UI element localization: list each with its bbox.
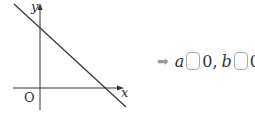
origin-label: O: [24, 90, 35, 105]
coordinate-graph: [0, 0, 135, 114]
blank-box-a[interactable]: [186, 52, 200, 70]
y-axis-label: y: [31, 0, 38, 14]
x-axis-label: x: [121, 85, 128, 100]
zero-a: 0,: [202, 52, 217, 71]
variable-a: a: [175, 52, 185, 71]
blank-box-b[interactable]: [234, 52, 248, 70]
zero-b: 0: [250, 52, 255, 71]
answer-row: ➡ a 0, b 0: [157, 50, 255, 72]
variable-b: b: [222, 52, 232, 71]
arrow-icon: ➡: [157, 53, 169, 69]
